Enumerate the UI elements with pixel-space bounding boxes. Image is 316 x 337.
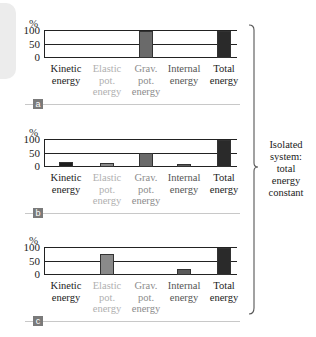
category-label-line: Elastic [85,172,129,184]
panel-divider [25,213,240,214]
gridline-50 [44,261,237,262]
category-label-elastic: Elasticpot.energy [85,63,129,98]
y-tick-50: 50 [18,148,40,159]
bar-elastic [100,254,114,275]
category-label-line: Total [202,172,246,184]
category-label-line: energy [124,195,168,207]
y-tick-0: 0 [18,161,40,172]
bar-kinetic [59,162,73,167]
note-line: total [262,163,310,175]
category-label-line: Total [202,63,246,75]
category-label-line: Elastic [85,63,129,75]
panel-badge-c: c [33,316,43,326]
category-label-line: energy [202,75,246,87]
category-label-line: Internal [162,280,206,292]
category-label-internal: Internalenergy [162,172,206,195]
bar-total [217,248,231,275]
category-label-total: Totalenergy [202,63,246,86]
category-label-line: Kinetic [44,280,88,292]
bar-grav [139,31,153,58]
gridline-100 [44,247,237,248]
note-line: Isolated [262,139,310,151]
category-label-line: energy [124,86,168,98]
panel-badge-a: a [33,99,43,109]
curly-brace-icon [248,24,262,316]
category-label-line: energy [85,195,129,207]
bar-elastic [100,163,114,167]
category-label-line: energy [202,292,246,304]
category-label-line: energy [85,86,129,98]
y-tick-100: 100 [18,242,40,253]
category-label-line: Kinetic [44,172,88,184]
category-label-line: Total [202,280,246,292]
category-label-kinetic: Kineticenergy [44,172,88,195]
y-tick-50: 50 [18,39,40,50]
category-label-kinetic: Kineticenergy [44,63,88,86]
category-label-line: energy [124,303,168,315]
isolated-system-note: Isolated system: total energy constant [262,139,310,199]
y-axis [44,139,45,166]
category-label-line: pot. [85,292,129,304]
category-label-elastic: Elasticpot.energy [85,280,129,315]
bar-grav [139,153,153,167]
category-label-internal: Internalenergy [162,63,206,86]
decorative-side-tab [0,3,16,79]
y-axis [44,247,45,274]
category-label-internal: Internalenergy [162,280,206,303]
bar-total [217,140,231,167]
y-axis [44,30,45,57]
category-label-line: energy [44,75,88,87]
category-label-kinetic: Kineticenergy [44,280,88,303]
y-tick-0: 0 [18,269,40,280]
panel-divider [25,321,240,322]
category-label-line: energy [162,184,206,196]
note-line: constant [262,187,310,199]
note-line: energy [262,175,310,187]
note-line: system: [262,151,310,163]
bar-internal [177,164,191,167]
category-label-line: Internal [162,63,206,75]
category-label-line: energy [85,303,129,315]
y-tick-0: 0 [18,52,40,63]
category-label-line: Kinetic [44,63,88,75]
category-label-line: Internal [162,172,206,184]
bar-total [217,31,231,58]
category-label-line: energy [44,292,88,304]
category-label-elastic: Elasticpot.energy [85,172,129,207]
category-label-line: Elastic [85,280,129,292]
panel-divider [25,104,240,105]
category-label-line: energy [44,184,88,196]
category-label-total: Totalenergy [202,172,246,195]
gridline-100 [44,139,237,140]
bar-internal [177,269,191,275]
baseline-0 [44,274,237,275]
panel-badge-b: b [33,208,43,218]
category-label-line: pot. [85,184,129,196]
category-label-line: energy [162,292,206,304]
y-tick-100: 100 [18,134,40,145]
category-label-line: energy [162,75,206,87]
category-label-total: Totalenergy [202,280,246,303]
y-tick-100: 100 [18,25,40,36]
y-tick-50: 50 [18,256,40,267]
category-label-line: energy [202,184,246,196]
category-label-line: pot. [85,75,129,87]
